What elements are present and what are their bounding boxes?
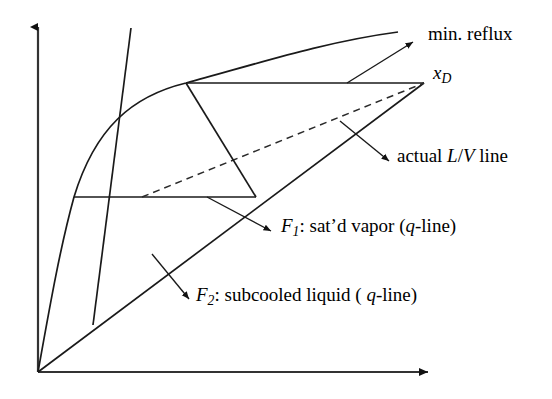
label-actual-suffix: line bbox=[475, 145, 508, 166]
label-f2-subcooled-liquid: F2: subcooled liquid ( q-line) bbox=[196, 285, 417, 308]
label-actual-prefix: actual bbox=[397, 145, 447, 166]
axes-group bbox=[38, 27, 428, 372]
diagram-canvas bbox=[0, 0, 552, 399]
label-f2-base: F bbox=[196, 284, 208, 305]
leader-arrows-group bbox=[152, 42, 413, 299]
label-actual-lv-line: actual L/V line bbox=[397, 146, 508, 166]
leader-f2 bbox=[152, 254, 189, 299]
label-f1-saturated-vapor: F1: sat’d vapor (q-line) bbox=[281, 216, 456, 239]
label-f1-text-a: : sat’d vapor ( bbox=[299, 215, 405, 236]
label-f1-q: q bbox=[406, 215, 416, 236]
label-f1-text-b: -line) bbox=[415, 215, 456, 236]
label-min-reflux: min. reflux bbox=[428, 24, 512, 44]
label-f2-q: q bbox=[366, 284, 376, 305]
label-xd-subscript: D bbox=[441, 71, 451, 86]
leader-min-reflux bbox=[347, 42, 413, 83]
label-actual-l: L bbox=[447, 145, 458, 166]
label-actual-v: V bbox=[463, 145, 475, 166]
label-f2-text-b: -line) bbox=[376, 284, 417, 305]
q-line-f1-saturated-vapor bbox=[186, 83, 256, 197]
label-f2-text-a: : subcooled liquid ( bbox=[214, 284, 366, 305]
actual-lv-operating-line bbox=[142, 83, 424, 197]
label-f1-base: F bbox=[281, 215, 293, 236]
distillation-diagram-figure: min. reflux xD actual L/V line F1: sat’d… bbox=[0, 0, 552, 399]
leader-f1 bbox=[207, 197, 271, 231]
q-line-f2-subcooled-liquid bbox=[93, 28, 131, 325]
label-xd: xD bbox=[433, 63, 451, 86]
label-min-reflux-text: min. reflux bbox=[428, 23, 512, 44]
